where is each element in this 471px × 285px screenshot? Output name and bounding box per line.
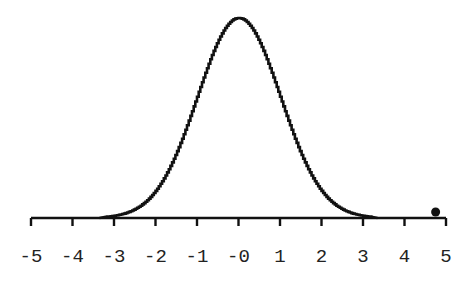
x-axis [31,218,446,226]
marker-point [431,208,440,217]
x-tick-label: 2 [316,246,327,268]
x-tick-label: -3 [103,246,126,268]
x-tick-label: 1 [274,246,285,268]
x-tick-label: -2 [144,246,167,268]
x-tick-label: 4 [399,246,410,268]
x-tick-label: -1 [186,246,209,268]
density-curve [100,18,378,218]
x-tick-label: 5 [440,246,451,268]
x-tick-label: -0 [227,246,250,268]
x-tick-label: -4 [61,246,84,268]
x-tick-labels: -5-4-3-2-1-012345 [20,246,452,268]
x-tick-label: -5 [20,246,43,268]
x-tick-label: 3 [357,246,368,268]
density-chart: -5-4-3-2-1-012345 [0,0,471,285]
